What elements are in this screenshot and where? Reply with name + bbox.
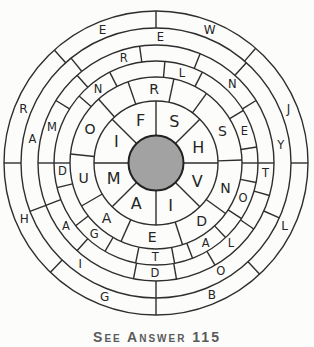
ring-4-letter: R [120,51,128,65]
ring-4-divider [56,100,70,108]
ring-3-letter: O [239,191,248,205]
ring-3-letter: D [58,164,67,178]
ring-4-divider [77,75,88,87]
ring-4-divider [243,100,257,108]
ring-3-divider [57,184,73,188]
ring-6-letter: J [286,102,291,116]
ring-2-letter: A [102,210,112,226]
ring-3-divider [241,147,257,150]
caption: See Answer 115 [0,329,314,345]
ring-5-letter: Y [276,138,285,152]
ring-6-letter: H [20,212,29,226]
ring-5-letter: E [157,30,164,44]
ring-3-divider [195,72,202,86]
ring-2-divider [218,160,242,161]
ring-3-divider [110,72,117,86]
ring-5-letter: A [28,132,36,146]
ring-1-letter: S [169,112,179,131]
ring-4-letter: L [228,236,235,250]
ring-2-divider [98,99,114,117]
ring-2-letter: U [78,170,88,186]
ring-2-divider [82,194,103,206]
ring-6-divider [248,262,260,274]
ring-puzzle-svg: SHVIAMIFRSNDEAUOLEOATGDNRNTLDAMEYOIAWJLB… [0,0,314,347]
ring-4-letter: N [228,77,237,91]
ring-2-letter: R [149,81,159,97]
ring-3-divider [228,210,241,219]
ring-4-divider [77,239,88,251]
ring-3-letter: G [90,227,99,241]
ring-1-letter: H [192,138,204,157]
ring-6-letter: R [19,102,27,116]
ring-2-letter: S [218,123,227,139]
ring-2-divider [128,82,136,105]
ring-3-divider [215,226,226,238]
ring-6-letter: G [100,290,109,304]
ring-4-divider [46,200,61,206]
ring-2-divider [192,93,206,112]
ring-3-divider [240,179,256,182]
ring-2-letter: D [196,213,207,229]
ring-1-letter: V [192,172,203,191]
ring-4-letter: D [151,266,160,280]
ring-6-letter: W [204,23,216,37]
ring-4-letter: M [47,120,57,134]
ring-6-letter: B [208,288,216,302]
ring-6-divider [245,48,256,61]
ring-2-divider [121,220,131,242]
ring-3-divider [230,110,244,118]
ring-4-divider [174,263,177,279]
ring-2-letter: N [220,180,230,196]
ring-3-divider [172,248,175,264]
ring-5-letter: O [216,264,225,278]
ring-3-divider [187,243,193,258]
ring-3-letter: A [202,236,210,250]
ring-3-letter: E [241,124,248,138]
ring-3-letter: T [151,250,160,264]
ring-2-letter: E [148,229,157,245]
ring-1-letter: I [114,132,119,151]
ring-1-letter: A [131,194,142,213]
ring-2-divider [206,199,225,213]
ring-1-letter: F [136,111,145,130]
ring-4-letter: A [62,219,70,233]
ring-1-letter: I [168,196,173,215]
ring-1-letter: M [107,169,121,188]
ring-2-divider [70,154,94,157]
ring-4-divider [241,220,254,229]
ring-3-divider [163,61,164,77]
ring-3-divider [76,216,89,226]
center-hub [129,136,184,191]
ring-2-divider [169,79,174,102]
ring-4-divider [254,191,269,195]
ring-2-divider [175,222,182,245]
ring-3-divider [136,247,139,263]
ring-5-divider [30,205,46,211]
ring-3-divider [105,237,113,251]
ring-5-divider [235,63,246,76]
puzzle-figure: SHVIAMIFRSNDEAUOLEOATGDNRNTLDAMEYOIAWJLB… [0,0,314,347]
ring-6-divider [50,260,62,272]
ring-6-divider [54,50,65,63]
ring-3-divider [79,96,91,106]
ring-2-letter: O [85,121,96,137]
ring-5-divider [71,58,82,71]
ring-5-letter: I [78,257,81,271]
ring-4-divider [133,263,136,279]
ring-3-letter: L [179,66,186,80]
ring-6-letter: L [281,219,288,233]
ring-6-letter: E [99,23,107,37]
ring-5-divider [264,211,280,218]
ring-4-divider [194,54,200,69]
ring-4-letter: T [261,166,270,180]
ring-4-divider [207,251,215,265]
ring-3-letter: N [94,82,103,96]
ring-4-divider [140,46,142,62]
